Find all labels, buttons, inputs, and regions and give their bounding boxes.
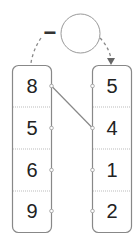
- dashed-arc-right: [100, 38, 111, 58]
- port-dots: [50, 84, 95, 213]
- right-cell-2: 4: [92, 116, 132, 140]
- right-cell-4: 2: [92, 199, 132, 223]
- right-cell-3: 1: [92, 158, 132, 182]
- minus-operator: −: [30, 21, 70, 45]
- left-cell-1: 8: [12, 74, 52, 98]
- arrowhead-icon: [107, 58, 115, 65]
- left-cell-3: 6: [12, 158, 52, 182]
- right-cell-1: 5: [92, 74, 132, 98]
- connector-line: [52, 86, 93, 128]
- left-cell-4: 9: [12, 199, 52, 223]
- left-cell-2: 5: [12, 116, 52, 140]
